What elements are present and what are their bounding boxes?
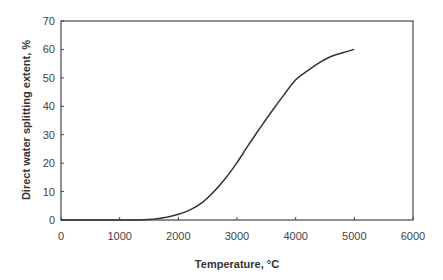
plot-area-frame [61, 21, 413, 220]
y-tick-label: 40 [43, 100, 55, 112]
y-tick-label: 20 [43, 157, 55, 169]
series-line [61, 49, 354, 220]
y-tick-label: 60 [43, 43, 55, 55]
y-tick-label: 50 [43, 72, 55, 84]
y-tick-label: 70 [43, 15, 55, 27]
y-tick-label: 0 [49, 214, 55, 226]
x-tick-label: 5000 [342, 230, 366, 242]
x-tick-label: 3000 [225, 230, 249, 242]
x-tick-label: 2000 [166, 230, 190, 242]
x-tick-label: 0 [58, 230, 64, 242]
x-tick-label: 4000 [283, 230, 307, 242]
y-axis-title: Direct water splitting extent, % [20, 40, 32, 200]
line-chart: 010203040506070 010002000300040005000600… [0, 0, 443, 280]
y-tick-label: 30 [43, 129, 55, 141]
y-tick-label: 10 [43, 186, 55, 198]
x-axis-title: Temperature, °C [195, 258, 279, 270]
x-tick-label: 1000 [107, 230, 131, 242]
x-tick-label: 6000 [401, 230, 425, 242]
